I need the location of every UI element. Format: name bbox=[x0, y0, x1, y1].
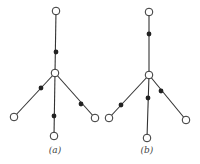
edge bbox=[55, 73, 95, 118]
filled-node bbox=[79, 102, 84, 107]
filled-node bbox=[52, 114, 57, 119]
filled-node bbox=[39, 86, 44, 91]
open-node bbox=[145, 71, 153, 79]
edge bbox=[149, 75, 186, 120]
diagram-a bbox=[10, 7, 99, 140]
edge bbox=[54, 73, 55, 136]
filled-node bbox=[54, 50, 59, 55]
edge bbox=[14, 73, 55, 117]
open-node bbox=[143, 134, 151, 142]
edge bbox=[147, 75, 149, 138]
diagram-a-label: (a) bbox=[49, 145, 62, 155]
open-node bbox=[50, 132, 58, 140]
open-node bbox=[182, 116, 190, 124]
diagram-b bbox=[105, 8, 190, 142]
filled-node bbox=[119, 103, 124, 108]
diagram-b-label: (b) bbox=[141, 145, 154, 155]
edge bbox=[55, 11, 56, 73]
filled-node bbox=[159, 89, 164, 94]
open-node bbox=[52, 7, 60, 15]
open-node bbox=[91, 114, 99, 122]
open-node bbox=[51, 69, 59, 77]
open-node bbox=[145, 8, 153, 16]
filled-node bbox=[146, 96, 151, 101]
open-node bbox=[105, 114, 113, 122]
edge bbox=[109, 75, 149, 118]
open-node bbox=[10, 113, 18, 121]
filled-node bbox=[147, 32, 152, 37]
tree-diagram-figure: (a) (b) bbox=[0, 0, 200, 164]
